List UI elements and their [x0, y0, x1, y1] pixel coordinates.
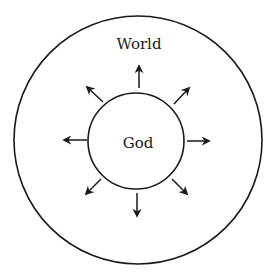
- arrow-up-right-icon: [174, 88, 189, 104]
- god-world-diagram: World God: [0, 0, 266, 277]
- arrow-down-right-icon: [172, 179, 187, 194]
- world-label: World: [117, 35, 162, 53]
- arrow-up-left-icon: [87, 87, 103, 102]
- arrow-down-left-icon: [86, 179, 101, 194]
- god-label: God: [123, 134, 154, 152]
